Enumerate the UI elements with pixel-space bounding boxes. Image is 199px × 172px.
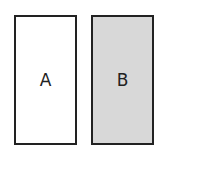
box-b: B xyxy=(91,15,154,145)
box-a-label: A xyxy=(40,70,52,90)
box-a: A xyxy=(14,15,77,145)
box-b-label: B xyxy=(117,70,129,90)
